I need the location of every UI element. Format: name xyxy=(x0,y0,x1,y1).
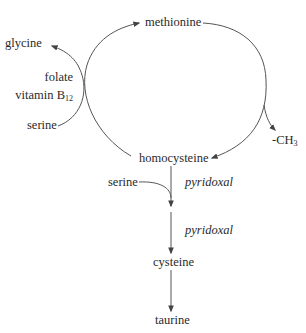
cycle-arrow-left xyxy=(85,23,139,156)
methyl-text: -CH xyxy=(272,133,294,147)
node-methionine: methionine xyxy=(145,15,201,29)
cofactor-vitamin-b-subscript: 12 xyxy=(65,94,73,103)
cofactor-folate: folate xyxy=(45,70,73,84)
cofactor-pyridoxal-1: pyridoxal xyxy=(185,175,233,189)
methyl-subscript: 3 xyxy=(294,139,298,148)
cofactor-vitamin-b-text: vitamin B xyxy=(15,88,65,102)
node-taurine: taurine xyxy=(155,313,190,327)
serine-glycine-arrow xyxy=(52,46,84,126)
node-glycine: glycine xyxy=(5,36,42,50)
methyl-arrow xyxy=(264,105,275,130)
node-serine-transsulfuration: serine xyxy=(108,175,138,189)
methyl-group-label: -CH3 xyxy=(272,133,298,147)
node-serine-cycle: serine xyxy=(27,118,57,132)
serine-join-arrow xyxy=(139,182,171,198)
pathway-arrows xyxy=(0,0,306,333)
node-homocysteine: homocysteine xyxy=(139,151,208,165)
cofactor-vitamin-b12: vitamin B12 xyxy=(15,88,73,102)
cofactor-pyridoxal-2: pyridoxal xyxy=(185,223,233,237)
cycle-arrow-right xyxy=(203,23,266,158)
node-cysteine: cysteine xyxy=(153,255,194,269)
